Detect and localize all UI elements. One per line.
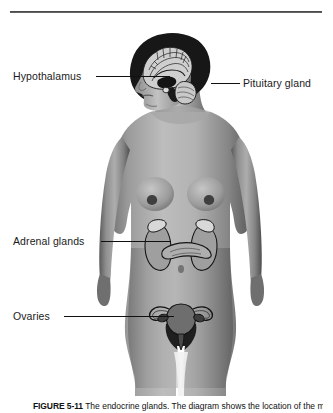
anatomy-illustration: Hypothalamus Pituitary gland Adrenal gla…: [0, 16, 333, 396]
pituitary-stalk: [167, 86, 168, 88]
label-pituitary-gland: Pituitary gland: [243, 78, 311, 89]
pituitary-gland: [163, 87, 169, 93]
figure-caption-text: The endocrine glands. The diagram shows …: [85, 401, 323, 411]
uterus: [166, 304, 195, 335]
top-divider-rule: [10, 11, 322, 13]
leader-line-hypothalamus: [96, 76, 170, 77]
figure-container: Hypothalamus Pituitary gland Adrenal gla…: [0, 0, 333, 413]
left-hand: [97, 274, 111, 306]
right-hand: [250, 274, 264, 306]
left-areola: [147, 195, 157, 205]
figure-caption-number: FIGURE 5-11: [33, 401, 83, 411]
leader-line-pituitary: [211, 83, 240, 84]
left-breast: [136, 177, 174, 211]
leader-line-adrenal: [101, 241, 171, 242]
navel: [178, 265, 184, 273]
label-ovaries: Ovaries: [13, 311, 50, 322]
right-areola: [204, 195, 214, 205]
label-hypothalamus: Hypothalamus: [13, 71, 81, 82]
leader-line-ovaries: [64, 316, 174, 317]
label-adrenal-glands: Adrenal glands: [13, 236, 84, 247]
figure-caption: FIGURE 5-11 The endocrine glands. The di…: [33, 401, 323, 412]
right-breast: [187, 177, 225, 211]
